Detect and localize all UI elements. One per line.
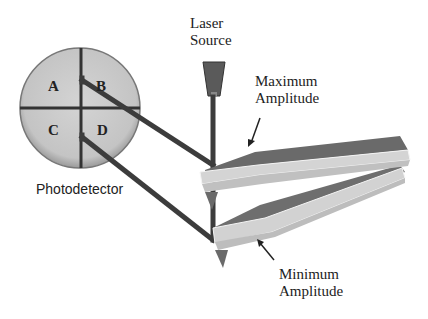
- min-amplitude-arrow: [257, 239, 274, 260]
- max-amp-line1: Maximum: [255, 73, 319, 90]
- max-amplitude-arrow: [248, 118, 260, 147]
- laser-source-icon: [203, 62, 225, 96]
- laser-label-line2: Source: [190, 32, 232, 49]
- quadrant-d-label: D: [97, 122, 108, 139]
- laser-source-label: Laser Source: [190, 15, 232, 49]
- quadrant-c-label: C: [48, 122, 59, 139]
- minimum-amplitude-label: Minimum Amplitude: [279, 266, 343, 300]
- laser-label-line1: Laser: [190, 15, 232, 32]
- max-amp-line2: Amplitude: [255, 90, 319, 107]
- min-amp-line1: Minimum: [279, 266, 343, 283]
- quadrant-b-label: B: [96, 78, 106, 95]
- maximum-amplitude-label: Maximum Amplitude: [255, 73, 319, 107]
- photodetector-label: Photodetector: [36, 181, 123, 198]
- quadrant-a-label: A: [48, 78, 59, 95]
- min-amp-line2: Amplitude: [279, 283, 343, 300]
